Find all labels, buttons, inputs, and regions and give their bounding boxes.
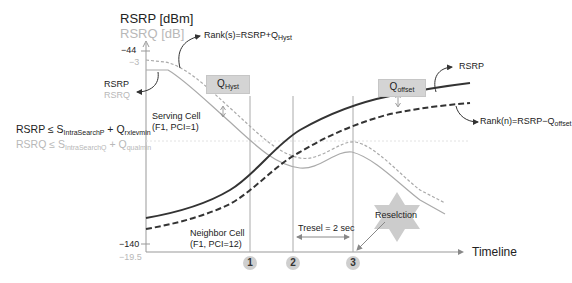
reselection-label: Reselction (375, 211, 417, 220)
tresel-label: Tresel = 2 sec (298, 224, 354, 233)
left-label-rsrq: RSRQ (104, 91, 130, 100)
y-tick-rsrq-top: −3 (129, 58, 139, 67)
left-rsrp-pointer (137, 72, 158, 92)
y-tick-rsrp-top: −44 (121, 46, 136, 55)
rank-s-label: Rank(s)=RSRP+QHyst (204, 31, 292, 41)
serving-cell-label-name: Serving Cell (152, 112, 201, 121)
neighbor-cell-label-id: (F1, PCI=12) (190, 240, 242, 249)
y-axis-title-rsrp: RSRP [dBm] (120, 12, 193, 25)
y-tick-rsrp-bottom: −140 (119, 240, 139, 249)
q-hyst-box: QHyst (206, 75, 250, 94)
step-marker-2: 2 (286, 256, 300, 270)
step-marker-1: 1 (243, 256, 257, 270)
left-label-rsrp: RSRP (104, 80, 129, 89)
q-hyst-gap-indicator (221, 106, 226, 117)
y-axis-title-rsrq: RSRQ [dB] (120, 27, 184, 40)
reselection-pointer (357, 222, 385, 250)
rank-n-label: Rank(n)=RSRP−Qoffset (480, 117, 572, 127)
q-offset-box: Qoffset (378, 79, 426, 97)
serving-cell-label-id: (F1, PCI=1) (152, 123, 199, 132)
rank-n-pointer (456, 106, 478, 122)
threshold-rsrq-formula: RSRQ ≤ SIntraSearchQ + Qqualmin (16, 139, 151, 151)
timeline-label: Timeline (472, 246, 517, 258)
right-label-rsrp: RSRP (459, 62, 484, 71)
threshold-rsrp-formula: RSRP ≤ SIntraSearchP + Qrxlevmin (16, 124, 151, 136)
neighbor-rsrp-curve (146, 83, 470, 218)
y-tick-rsrq-bottom: −19.5 (119, 253, 142, 262)
timeline-axis (146, 249, 464, 255)
neighbor-cell-label-name: Neighbor Cell (190, 229, 245, 238)
step-marker-3: 3 (346, 256, 360, 270)
